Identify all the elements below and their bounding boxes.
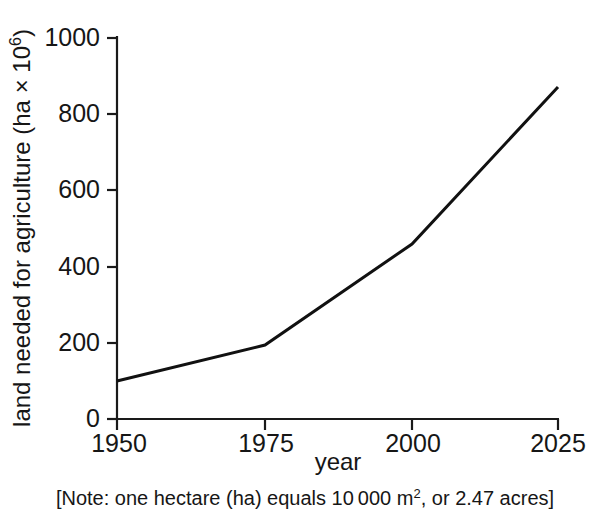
y-axis-ticks — [107, 38, 117, 419]
x-axis-title: year — [315, 448, 362, 475]
chart-axes — [117, 36, 559, 419]
y-tick-label-0: 0 — [86, 404, 100, 432]
y-tick-label-800: 800 — [58, 99, 100, 127]
x-tick-label-1975: 1975 — [238, 429, 294, 457]
note-superscript: 2 — [413, 486, 420, 501]
chart-figure: 1000 800 600 400 200 0 1950 1975 2000 20… — [0, 0, 610, 527]
y-axis-title-tail: ) — [8, 29, 35, 37]
y-tick-label-200: 200 — [58, 328, 100, 356]
x-tick-label-2000: 2000 — [385, 429, 441, 457]
svg-text:[Note: one hectare (ha) equals: [Note: one hectare (ha) equals 10 000 m2… — [56, 486, 554, 509]
note-prefix: [Note: one hectare (ha) equals 10 000 m — [56, 487, 414, 509]
figure-note: [Note: one hectare (ha) equals 10 000 m2… — [56, 486, 554, 509]
y-axis-title-main: land needed for agriculture (ha × 10 — [8, 46, 35, 427]
y-axis-tick-labels: 1000 800 600 400 200 0 — [44, 23, 100, 432]
y-axis-title-superscript: 6 — [7, 37, 24, 46]
svg-text:land needed for agriculture (h: land needed for agriculture (ha × 106) — [7, 29, 35, 427]
y-axis-title: land needed for agriculture (ha × 106) — [7, 29, 35, 427]
y-tick-label-1000: 1000 — [44, 23, 100, 51]
y-tick-label-400: 400 — [58, 252, 100, 280]
note-suffix: , or 2.47 acres] — [421, 487, 554, 509]
data-series-line — [117, 87, 558, 381]
line-chart-svg: 1000 800 600 400 200 0 1950 1975 2000 20… — [0, 0, 610, 527]
x-tick-label-2025: 2025 — [530, 429, 586, 457]
x-axis-ticks — [117, 419, 558, 430]
y-tick-label-600: 600 — [58, 175, 100, 203]
x-tick-label-1950: 1950 — [91, 429, 147, 457]
